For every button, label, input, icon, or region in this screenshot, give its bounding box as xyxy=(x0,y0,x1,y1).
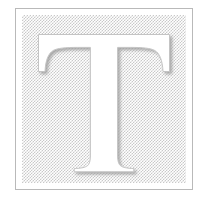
tile-letter-text: T xyxy=(0,0,1,1)
tile-canvas: T Decorative square tile containing a la… xyxy=(0,0,212,205)
halftone-field xyxy=(22,15,186,183)
tile-alt-text: Decorative square tile containing a larg… xyxy=(0,0,1,1)
